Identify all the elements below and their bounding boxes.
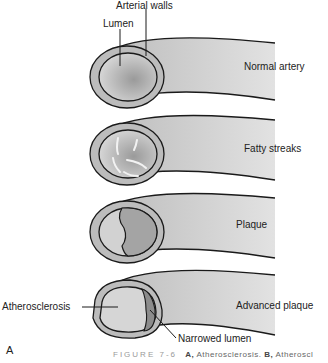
arterial-walls-label: Arterial walls (116, 0, 173, 11)
caption-b-text: Atheroscl (275, 350, 313, 359)
caption-a-key: A, (185, 350, 194, 359)
stage-label-normal-artery: Normal artery (244, 61, 305, 72)
atherosclerosis-label: Atherosclerosis (2, 301, 70, 312)
caption-a-text: Atherosclerosis. (196, 350, 261, 359)
stage-label-plaque: Plaque (236, 219, 267, 230)
caption-b-key: B, (264, 350, 273, 359)
narrowed-lumen-label: Narrowed lumen (178, 333, 251, 344)
stage-label-advanced-plaque: Advanced plaque (236, 300, 313, 311)
figure-caption: FIGURE 7-6 A, Atherosclerosis. B, Athero… (113, 350, 313, 359)
figure-number: FIGURE 7-6 (113, 350, 177, 359)
lumen-label: Lumen (103, 18, 134, 29)
stage-label-fatty-streaks: Fatty streaks (244, 143, 301, 154)
panel-label: A (6, 344, 13, 356)
